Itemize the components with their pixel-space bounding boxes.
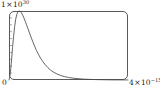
x-max-times-symbol: × [134, 78, 141, 87]
y-max-exponent: 30 [23, 0, 30, 5]
x-max-base: 10 [141, 78, 151, 87]
y-max-times-symbol: × [6, 0, 13, 9]
distribution-curve [9, 11, 128, 80]
plot-canvas [9, 11, 128, 80]
y-max-base: 10 [13, 0, 23, 9]
y-axis-max-label: 1×1030 [1, 1, 29, 9]
y-axis-min-label: 0 [2, 79, 7, 87]
x-max-exponent: −15 [151, 77, 160, 83]
plot-screenshot: 1×1030 0 4×10−15 [0, 0, 160, 92]
x-axis-max-label: 4×10−15 [129, 79, 160, 87]
